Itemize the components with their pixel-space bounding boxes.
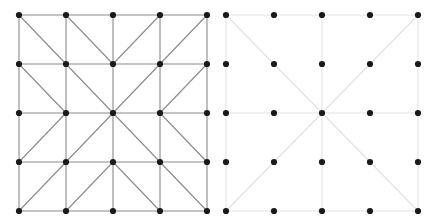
mesh-node-point [223,208,229,214]
mesh-node-point [319,110,325,116]
mesh-node-point [223,159,229,165]
mesh-node-point [157,159,163,165]
mesh-node-point [63,208,69,214]
mesh-node-point [63,159,69,165]
mesh-node-point [223,61,229,67]
mesh-node-point [415,159,421,165]
mesh-node-point [367,12,373,18]
mesh-node-point [319,159,325,165]
mesh-node-point [319,12,325,18]
mesh-node-point [415,12,421,18]
mesh-node-point [204,159,210,165]
mesh-node-point [110,12,116,18]
mesh-node-point [157,208,163,214]
mesh-node-point [204,61,210,67]
mesh-node-point [271,208,277,214]
mesh-node-point [223,12,229,18]
mesh-node-point [204,208,210,214]
mesh-node-point [110,110,116,116]
mesh-node-point [271,61,277,67]
mesh-node-point [367,61,373,67]
mesh-node-point [16,12,22,18]
mesh-node-point [16,61,22,67]
mesh-node-point [271,12,277,18]
mesh-node-point [415,110,421,116]
mesh-node-point [157,12,163,18]
mesh-node-point [16,159,22,165]
mesh-node-point [110,61,116,67]
mesh-node-point [16,110,22,116]
mesh-node-point [110,159,116,165]
mesh-node-point [319,61,325,67]
mesh-node-point [415,208,421,214]
coarse-cross-mesh-panel [223,12,421,214]
mesh-node-point [16,208,22,214]
mesh-node-point [157,110,163,116]
mesh-node-point [367,110,373,116]
mesh-node-point [110,208,116,214]
mesh-node-point [223,110,229,116]
mesh-node-point [157,61,163,67]
figure-root [0,0,435,222]
mesh-node-point [271,159,277,165]
mesh-node-point [63,61,69,67]
mesh-node-point [63,12,69,18]
mesh-node-point [204,12,210,18]
fully-triangulated-mesh-panel [16,12,210,214]
mesh-node-point [204,110,210,116]
mesh-node-point [271,110,277,116]
mesh-figure-svg [0,0,435,222]
mesh-node-point [415,61,421,67]
mesh-node-point [367,159,373,165]
mesh-node-point [367,208,373,214]
mesh-node-point [63,110,69,116]
mesh-node-point [319,208,325,214]
